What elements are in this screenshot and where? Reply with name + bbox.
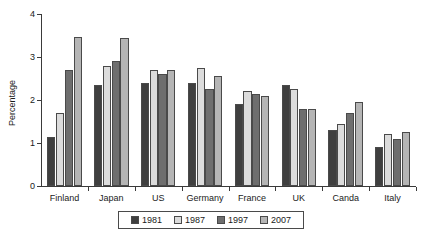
y-axis-tick-label: 0 (30, 181, 35, 191)
bar (94, 85, 102, 186)
bar (188, 83, 196, 186)
y-axis-tick (37, 14, 41, 15)
bar-group (375, 14, 410, 186)
x-axis-category-label: US (135, 193, 182, 203)
bar (103, 66, 111, 186)
x-axis-tick (322, 187, 323, 191)
y-axis-tick (37, 143, 41, 144)
legend-swatch-icon (174, 216, 182, 224)
bar-chart-figure: Percentage 01234FinlandJapanUSGermanyFra… (0, 0, 425, 239)
legend-label: 1981 (142, 215, 162, 225)
bar (290, 89, 298, 186)
x-axis-category-label: Germany (182, 193, 229, 203)
x-axis-category-label: Canda (322, 193, 369, 203)
x-axis-category-label: Italy (369, 193, 416, 203)
bar (74, 37, 82, 186)
bar-group (235, 14, 270, 186)
y-axis-tick-label: 2 (30, 95, 35, 105)
x-axis-tick (135, 187, 136, 191)
legend-label: 2007 (271, 215, 291, 225)
x-axis-tick (229, 187, 230, 191)
bar (141, 83, 149, 186)
y-axis-tick (37, 186, 41, 187)
x-axis-category-label: Finland (41, 193, 88, 203)
bar (282, 85, 290, 186)
bar (375, 147, 383, 186)
bar (252, 94, 260, 186)
bar (47, 137, 55, 186)
bar-group (328, 14, 363, 186)
legend-item: 1981 (131, 215, 162, 225)
legend-swatch-icon (260, 216, 268, 224)
legend-item: 1987 (174, 215, 205, 225)
y-axis-tick-label: 1 (30, 138, 35, 148)
bar (167, 70, 175, 186)
bar (205, 89, 213, 186)
bar-group (188, 14, 223, 186)
x-axis-tick (182, 187, 183, 191)
bar (355, 102, 363, 186)
bar-group (47, 14, 82, 186)
x-axis-category-label: Japan (88, 193, 135, 203)
bar-group (94, 14, 129, 186)
bar (393, 139, 401, 186)
y-axis-tick-label: 3 (30, 52, 35, 62)
bar (261, 96, 269, 186)
bar-group (141, 14, 176, 186)
y-axis-tick (37, 57, 41, 58)
y-axis-tick (37, 100, 41, 101)
bar (235, 104, 243, 186)
y-axis-title: Percentage (3, 8, 21, 198)
bar (308, 109, 316, 186)
bar (402, 132, 410, 186)
y-axis-line (41, 14, 42, 186)
bar (337, 124, 345, 186)
bar (112, 61, 120, 186)
x-axis-tick (88, 187, 89, 191)
bar (384, 134, 392, 186)
bar (299, 109, 307, 186)
bar (197, 68, 205, 186)
x-axis-tick (275, 187, 276, 191)
legend-item: 1997 (217, 215, 248, 225)
bar (214, 76, 222, 186)
legend-label: 1987 (185, 215, 205, 225)
x-axis-tick (416, 187, 417, 191)
x-axis-tick (369, 187, 370, 191)
legend-swatch-icon (217, 216, 225, 224)
bar (150, 70, 158, 186)
x-axis-category-label: UK (275, 193, 322, 203)
legend-label: 1997 (228, 215, 248, 225)
bar (158, 74, 166, 186)
legend-swatch-icon (131, 216, 139, 224)
bar-group (282, 14, 317, 186)
bar (56, 113, 64, 186)
x-axis-category-label: France (229, 193, 276, 203)
plot-area: 01234FinlandJapanUSGermanyFranceUKCandaI… (41, 14, 416, 186)
bar (243, 91, 251, 186)
bar (328, 130, 336, 186)
legend-item: 2007 (260, 215, 291, 225)
bar (65, 70, 73, 186)
bar (120, 38, 128, 186)
y-axis-tick-label: 4 (30, 9, 35, 19)
bar (346, 113, 354, 186)
chart-legend: 1981198719972007 (118, 211, 304, 229)
